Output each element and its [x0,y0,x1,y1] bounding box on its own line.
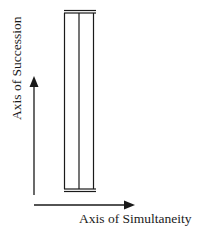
vertical-axis-arrow [30,76,39,195]
diagram-canvas: Axis of Succession Axis of Simultaneity [0,0,205,236]
horizontal-axis-arrow [34,201,135,210]
column-rectangle [64,11,96,192]
horizontal-axis-label: Axis of Simultaneity [79,211,192,226]
arrow-right-icon [124,201,135,210]
vertical-axis-label: Axis of Succession [9,16,24,120]
arrow-up-icon [30,76,39,87]
